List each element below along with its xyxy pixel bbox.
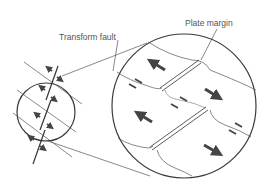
transform-fault-leader (113, 40, 118, 71)
large-detail-circle (112, 34, 256, 178)
connector-lines (45, 43, 150, 176)
small-overview-circle (13, 62, 82, 164)
plate-motion-arrows (139, 62, 218, 153)
transform-fault-diagram (0, 0, 266, 188)
plate-margin-leader (201, 29, 217, 60)
